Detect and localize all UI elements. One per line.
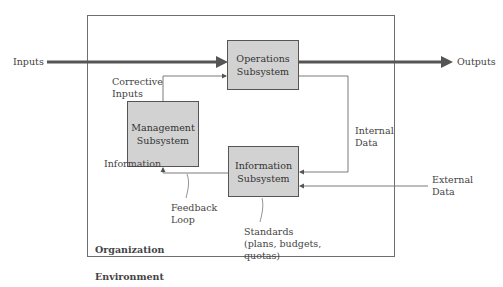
operations-line1: Operations: [236, 52, 289, 65]
organization-label: Organization: [95, 244, 164, 256]
management-line2: Subsystem: [137, 134, 189, 147]
standards-label: Standards (plans, budgets, quotas): [244, 226, 321, 262]
inputs-label: Inputs: [13, 56, 44, 68]
environment-label: Environment: [95, 271, 164, 283]
internal-data-label: Internal Data: [355, 125, 394, 149]
management-line1: Management: [131, 121, 194, 134]
corrective-inputs-label: Corrective Inputs: [112, 76, 163, 100]
information-subsystem: Information Subsystem: [228, 146, 299, 197]
outputs-label: Outputs: [457, 56, 496, 68]
operations-line2: Subsystem: [237, 65, 289, 78]
information-line1: Information: [235, 159, 292, 172]
operations-subsystem: Operations Subsystem: [227, 40, 299, 90]
external-data-label: External Data: [432, 174, 473, 198]
information-line2: Subsystem: [237, 172, 289, 185]
feedback-loop-label: Feedback Loop: [171, 202, 217, 226]
information-label: Information: [104, 158, 161, 170]
